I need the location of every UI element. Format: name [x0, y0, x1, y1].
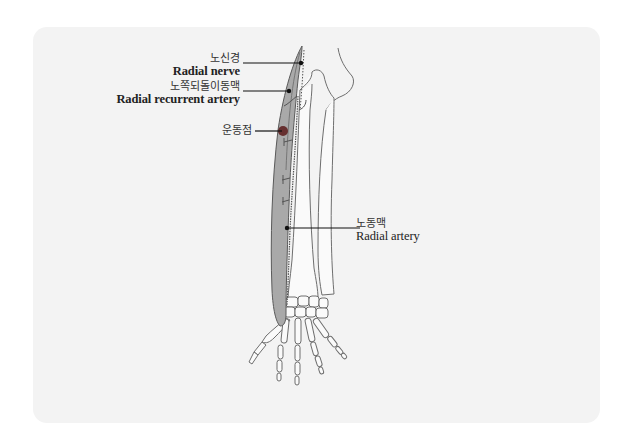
ulna-bone [318, 98, 334, 295]
label-radial-recurrent-artery: 노쪽되돌이동맥 Radial recurrent artery [100, 80, 240, 106]
carpal-bones [284, 296, 328, 318]
elbow-joint-outline [312, 70, 334, 98]
label-motor-point-korean: 운동점 [190, 124, 252, 137]
label-radial-artery-english: Radial artery [356, 230, 456, 243]
humerus-outline [326, 48, 354, 110]
label-radial-nerve-english: Radial nerve [150, 65, 240, 78]
hand-bones [249, 317, 347, 385]
label-radial-artery: 노동맥 Radial artery [356, 217, 456, 243]
label-motor-point: 운동점 [190, 124, 252, 137]
label-radial-nerve: 노신경 Radial nerve [150, 52, 240, 78]
label-radial-recurrent-artery-english: Radial recurrent artery [100, 93, 240, 106]
forearm-illustration [0, 0, 633, 441]
